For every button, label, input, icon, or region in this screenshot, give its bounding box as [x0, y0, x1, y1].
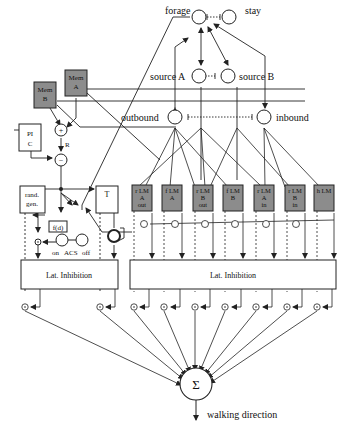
- svg-text:gen.: gen.: [26, 200, 38, 208]
- svg-text:PI: PI: [27, 130, 34, 138]
- svg-text:on: on: [52, 249, 60, 257]
- stay-node: [222, 10, 236, 24]
- svg-text:B: B: [43, 95, 48, 103]
- forage-label: forage: [165, 5, 191, 16]
- inbound-label: inbound: [276, 112, 309, 123]
- svg-text:f LM: f LM: [226, 187, 240, 194]
- svg-text:r LM: r LM: [288, 187, 302, 194]
- svg-text:+: +: [59, 126, 64, 135]
- source-a-node: [192, 69, 206, 83]
- inbound-node: [257, 110, 271, 124]
- stay-label: stay: [245, 5, 261, 16]
- svg-text:Mem: Mem: [38, 86, 53, 94]
- svg-text:C: C: [28, 140, 33, 148]
- svg-text:r LM: r LM: [257, 187, 271, 194]
- svg-text:off: off: [82, 249, 91, 257]
- svg-text:f LM: f LM: [165, 187, 179, 194]
- acs-on-node: [56, 234, 68, 246]
- diagram-canvas: forage stay source A source B outbound i…: [0, 0, 351, 431]
- svg-text:in: in: [261, 201, 267, 208]
- svg-text:ACS: ACS: [64, 249, 78, 257]
- outbound-label: outbound: [121, 112, 159, 123]
- source-b-label: source B: [239, 71, 275, 82]
- acs-off-node: [76, 234, 88, 246]
- walking-direction-label: walking direction: [207, 409, 277, 420]
- svg-text:B: B: [231, 194, 236, 201]
- svg-text:Lat. Inhibition: Lat. Inhibition: [210, 271, 256, 280]
- svg-text:−: −: [59, 156, 64, 165]
- threshold-node: [108, 230, 120, 242]
- svg-text:h LM: h LM: [317, 187, 332, 194]
- svg-text:in: in: [292, 201, 298, 208]
- svg-text:f(d): f(d): [53, 224, 64, 232]
- svg-text:B: B: [293, 194, 298, 201]
- svg-text:A: A: [140, 194, 145, 201]
- svg-text:B: B: [201, 194, 206, 201]
- svg-text:T: T: [105, 190, 110, 199]
- svg-text:A: A: [262, 194, 267, 201]
- svg-text:out: out: [199, 201, 208, 208]
- svg-text:out: out: [138, 201, 147, 208]
- svg-text:r LM: r LM: [135, 187, 149, 194]
- svg-text:Mem: Mem: [69, 74, 84, 82]
- svg-text:Lat. Inhibition: Lat. Inhibition: [46, 271, 92, 280]
- svg-text:rand.: rand.: [25, 191, 39, 199]
- source-b-node: [221, 69, 235, 83]
- source-a-label: source A: [150, 71, 186, 82]
- svg-text:A: A: [170, 194, 175, 201]
- outbound-node: [168, 110, 182, 124]
- forage-node: [192, 10, 206, 24]
- sum-symbol: Σ: [192, 377, 200, 392]
- svg-text:R: R: [65, 141, 70, 149]
- svg-text:r LM: r LM: [196, 187, 210, 194]
- svg-text:A: A: [73, 83, 78, 91]
